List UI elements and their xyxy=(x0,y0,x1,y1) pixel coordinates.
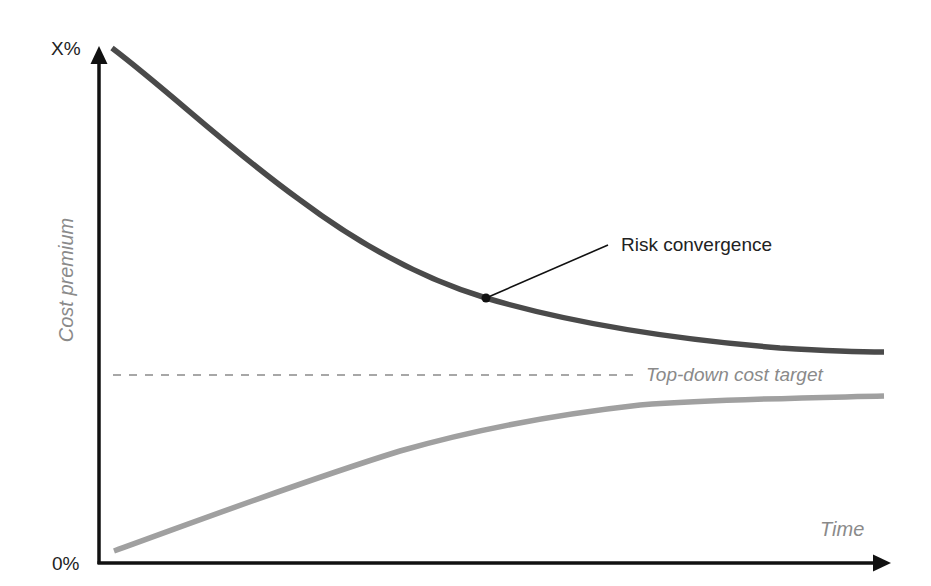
y-axis-title: Cost premium xyxy=(55,218,78,342)
risk-convergence-label: Risk convergence xyxy=(621,234,772,256)
risk-convergence-marker xyxy=(482,294,491,303)
y-tick-top: X% xyxy=(51,38,81,60)
x-axis-title: Time xyxy=(820,518,864,541)
annotation-leader-line xyxy=(486,245,608,298)
chart-canvas xyxy=(0,0,931,586)
top-down-target-label: Top-down cost target xyxy=(646,364,823,386)
upper-cost-curve xyxy=(112,48,884,352)
x-axis-arrow-icon xyxy=(873,555,891,572)
lower-cost-curve xyxy=(114,396,884,551)
y-axis-arrow-icon xyxy=(91,46,108,64)
y-tick-bottom: 0% xyxy=(52,553,79,575)
